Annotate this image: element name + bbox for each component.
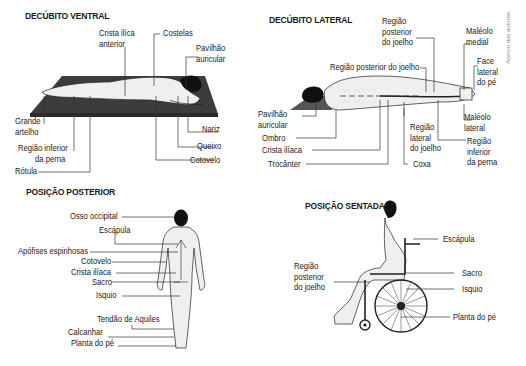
- image-credit: Acervo dos autores: [505, 12, 511, 64]
- label-grande-artelho: Grande artelho: [15, 116, 41, 137]
- label-maleolo-medial: Maléolo medial: [466, 26, 493, 47]
- label-cotovelo-posterior: Cotovelo: [81, 256, 111, 267]
- label-escapula-sentada: Escápula: [443, 234, 474, 245]
- label-face-lateral-pe: Face lateral do pé: [477, 56, 498, 88]
- label-nariz: Nariz: [202, 124, 220, 135]
- label-regiao-posterior-joelho: Região posterior do joelho: [330, 62, 419, 73]
- label-planta-pe-sentada: Planta do pé: [453, 312, 496, 323]
- label-escapula: Escápula: [99, 225, 130, 236]
- panel-title-ventral: DECÚBITO VENTRAL: [25, 10, 109, 21]
- label-trocanter: Trocânter: [268, 159, 300, 170]
- label-sacro-sentada: Sacro: [462, 268, 482, 279]
- label-regiao-posterior-joelho-top: Região posterior do joelho: [382, 16, 413, 48]
- label-maleolo-lateral: Maléolo lateral: [464, 112, 491, 133]
- label-regiao-posterior-joelho-sentada: Região posterior do joelho: [294, 261, 325, 293]
- label-regiao-lateral-joelho: Região lateral do joelho: [410, 122, 441, 154]
- label-tendao-aquiles: Tendão de Aquiles: [97, 314, 160, 325]
- posterior-figure: [157, 210, 205, 349]
- sentada-figure: [334, 201, 427, 332]
- label-pavilhao-auricular-lateral: Pavilhão auricular: [258, 109, 287, 130]
- label-calcanhar: Calcanhar: [68, 327, 103, 338]
- panel-title-posterior: POSIÇÃO POSTERIOR: [26, 186, 115, 197]
- label-cotovelo: Cotovelo: [190, 155, 220, 166]
- label-planta-pe-posterior: Planta do pé: [71, 338, 114, 349]
- label-crista-iliaca-posterior: Crista ilíaca: [71, 267, 111, 278]
- label-pavilhao-auricular: Pavilhão auricular: [196, 43, 225, 64]
- label-osso-occipital: Osso occipital: [70, 211, 118, 222]
- panel-title-lateral: DECÚBITO LATERAL: [269, 14, 352, 25]
- ventral-figure: [30, 76, 218, 118]
- label-isquio-posterior: Isquio: [96, 290, 116, 301]
- label-queixo: Queixo: [197, 141, 221, 152]
- label-coxa: Coxa: [413, 159, 431, 170]
- label-regiao-inferior-perna: Região inferior da perna: [18, 143, 68, 164]
- label-sacro-posterior: Sacro: [92, 277, 112, 288]
- label-apofises-espinhosas: Apófises espinhosas: [18, 246, 88, 257]
- panel-title-sentada: POSIÇÃO SENTADA: [305, 200, 385, 211]
- label-regiao-inferior-perna-lateral: Região inferior da perna: [467, 136, 497, 168]
- label-crista-iliaca-anterior: Crista ilíca anterior: [99, 28, 135, 49]
- label-ombro: Ombro: [262, 133, 285, 144]
- lateral-figure: [290, 76, 475, 110]
- label-rotula: Rótula: [15, 166, 37, 177]
- label-crista-iliaca-lateral: Crista ilíaca: [262, 145, 302, 156]
- label-costelas: Costelas: [163, 28, 193, 39]
- label-isquio-sentada: Isquio: [462, 284, 482, 295]
- diagram-illustrations: [0, 0, 526, 366]
